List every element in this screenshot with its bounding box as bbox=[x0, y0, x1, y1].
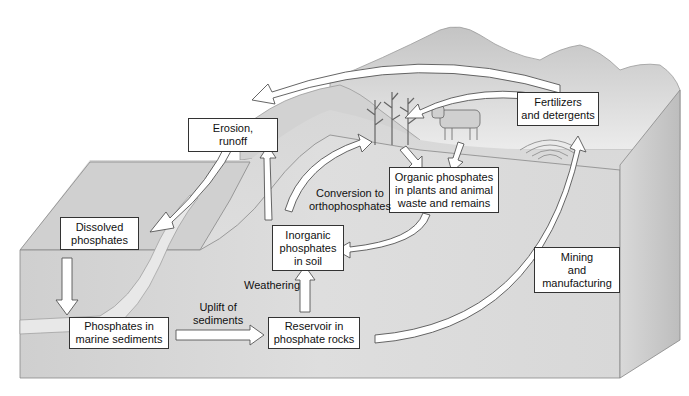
box-text: phosphates bbox=[71, 234, 128, 247]
label-text: Weathering bbox=[244, 279, 300, 292]
box-text: and bbox=[568, 264, 586, 277]
box-text: phosphates bbox=[280, 242, 337, 255]
box-text: phosphate rocks bbox=[274, 333, 355, 346]
box-text: in soil bbox=[294, 255, 322, 268]
box-marine-sediments: Phosphates in marine sediments bbox=[69, 317, 169, 349]
box-text: Mining bbox=[561, 251, 593, 264]
box-erosion-runoff: Erosion, runoff bbox=[188, 118, 278, 152]
box-text: Erosion, bbox=[213, 122, 253, 135]
box-text: Fertilizers bbox=[534, 96, 582, 109]
label-text: Uplift of bbox=[193, 301, 243, 314]
label-text: orthophosphates bbox=[309, 200, 391, 213]
label-weathering: Weathering bbox=[244, 279, 300, 292]
box-text: Inorganic bbox=[285, 229, 330, 242]
box-text: Dissolved bbox=[76, 221, 124, 234]
box-text: waste and remains bbox=[398, 197, 490, 210]
label-uplift-of-sediments: Uplift of sediments bbox=[193, 301, 243, 327]
label-text: Conversion to bbox=[309, 187, 391, 200]
box-dissolved-phosphates: Dissolved phosphates bbox=[60, 217, 139, 250]
box-text: and detergents bbox=[521, 109, 594, 122]
label-conversion-to-orthophosphates: Conversion to orthophosphates bbox=[309, 187, 391, 213]
box-text: Organic phosphates bbox=[395, 171, 493, 184]
label-text: sediments bbox=[193, 314, 243, 327]
box-text: Reservoir in bbox=[285, 320, 344, 333]
box-inorganic-phosphates: Inorganic phosphates in soil bbox=[272, 225, 344, 271]
box-text: in plants and animal bbox=[395, 184, 493, 197]
box-text: manufacturing bbox=[542, 277, 612, 290]
box-text: marine sediments bbox=[76, 333, 163, 346]
box-mining-manufacturing: Mining and manufacturing bbox=[534, 247, 620, 293]
box-reservoir-phosphate-rocks: Reservoir in phosphate rocks bbox=[268, 317, 360, 349]
box-fertilizers-detergents: Fertilizers and detergents bbox=[517, 92, 599, 126]
box-text: Phosphates in bbox=[84, 320, 154, 333]
box-organic-phosphates: Organic phosphates in plants and animal … bbox=[389, 167, 499, 213]
box-text: runoff bbox=[219, 135, 247, 148]
